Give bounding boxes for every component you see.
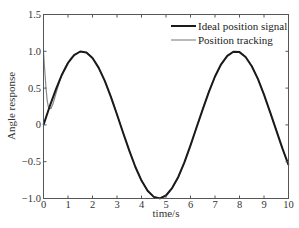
x-tick-label: 0 <box>41 199 46 210</box>
x-axis-label: time/s <box>153 207 180 219</box>
plot-lines <box>44 51 289 198</box>
x-tick-label: 10 <box>283 199 294 210</box>
y-axis-label: Angle response <box>5 72 17 140</box>
line-chart: 012345678910 1.51.00.50−0.5−1.0 time/s A… <box>0 0 299 228</box>
x-tick-label: 6 <box>188 199 193 210</box>
series-line <box>44 51 289 198</box>
x-tick-label: 7 <box>212 199 217 210</box>
x-tick-label: 8 <box>237 199 242 210</box>
y-tick-label: −1.0 <box>22 193 41 204</box>
y-tick-label: 1.0 <box>28 46 41 57</box>
y-tick-label: −0.5 <box>22 156 41 167</box>
series-line <box>44 52 289 199</box>
x-tick-label: 9 <box>261 199 266 210</box>
legend-label-tracking: Position tracking <box>198 34 273 46</box>
y-tick-label: 0 <box>36 119 41 130</box>
y-tick-label: 1.5 <box>28 9 41 20</box>
x-tick-label: 1 <box>65 199 70 210</box>
x-tick-label: 4 <box>139 199 145 210</box>
x-tick-label: 3 <box>114 199 119 210</box>
legend-label-ideal: Ideal position signal <box>198 20 287 32</box>
y-tick-label: 0.5 <box>28 83 41 94</box>
x-tick-label: 2 <box>90 199 95 210</box>
y-tick-labels: 1.51.00.50−0.5−1.0 <box>22 9 41 204</box>
legend: Ideal position signal Position tracking <box>171 20 287 46</box>
